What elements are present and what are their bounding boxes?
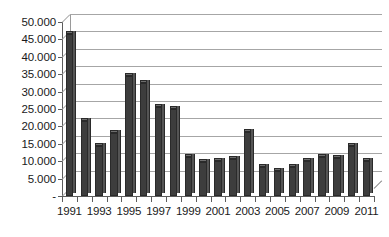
bar-side-face bbox=[311, 158, 314, 193]
x-axis-tick-label: 1999 bbox=[176, 205, 201, 217]
x-axis-tick bbox=[151, 196, 152, 202]
bar-front-face bbox=[110, 133, 117, 196]
x-axis-tick bbox=[62, 196, 63, 202]
x-axis-tick bbox=[315, 196, 316, 202]
bar-top-face bbox=[66, 31, 73, 34]
bar-top-face bbox=[363, 158, 370, 161]
x-axis-tick-label: 1991 bbox=[57, 205, 82, 217]
bar-front-face bbox=[140, 83, 147, 196]
bar bbox=[110, 125, 117, 196]
bar-side-face bbox=[177, 106, 180, 193]
bar-top-face bbox=[95, 143, 102, 146]
y-axis-tick-label: 45.000 bbox=[21, 33, 56, 45]
bar-top-face bbox=[303, 158, 310, 161]
bar-side-face bbox=[341, 155, 344, 193]
bar bbox=[363, 153, 370, 196]
bar-side-face bbox=[296, 164, 299, 193]
bar-chart: -5.00010.00015.00020.00025.00030.00035.0… bbox=[0, 0, 389, 237]
x-axis-tick-label: 2009 bbox=[324, 205, 349, 217]
y-axis-tick-label: 40.000 bbox=[21, 51, 56, 63]
x-axis-tick bbox=[359, 196, 360, 202]
x-axis-tick bbox=[285, 196, 286, 202]
bar-top-face bbox=[229, 156, 236, 159]
y-axis-tick-label: 20.000 bbox=[21, 120, 56, 132]
x-axis-tick-label: 1995 bbox=[116, 205, 141, 217]
x-axis-tick bbox=[270, 196, 271, 202]
y-axis-tick-label: 25.000 bbox=[21, 103, 56, 115]
bar-top-face bbox=[140, 80, 147, 83]
x-axis-tick bbox=[240, 196, 241, 202]
x-axis-tick bbox=[77, 196, 78, 202]
bar-top-face bbox=[155, 104, 162, 107]
bar-top-face bbox=[333, 155, 340, 158]
bar-series bbox=[62, 14, 374, 196]
bar bbox=[66, 26, 73, 196]
x-axis-tick bbox=[92, 196, 93, 202]
bar bbox=[199, 154, 206, 196]
x-axis-tick-label: 2007 bbox=[295, 205, 320, 217]
bar bbox=[140, 75, 147, 196]
bar bbox=[81, 113, 88, 196]
bar-side-face bbox=[370, 158, 373, 193]
bar-front-face bbox=[303, 161, 310, 196]
x-axis-tick-label: 1993 bbox=[87, 205, 112, 217]
bar-top-face bbox=[185, 154, 192, 157]
bar-side-face bbox=[222, 158, 225, 193]
bar-front-face bbox=[214, 161, 221, 196]
x-axis-tick bbox=[211, 196, 212, 202]
bar-front-face bbox=[244, 132, 251, 196]
bar-front-face bbox=[81, 121, 88, 196]
bar bbox=[259, 159, 266, 196]
bar-front-face bbox=[274, 171, 281, 196]
bar-side-face bbox=[103, 143, 106, 193]
bar bbox=[185, 149, 192, 196]
bar-side-face bbox=[237, 156, 240, 193]
y-axis-tick-label: 10.000 bbox=[21, 155, 56, 167]
y-axis-tick-label: 5.000 bbox=[28, 173, 56, 185]
bar-top-face bbox=[348, 143, 355, 146]
bar-front-face bbox=[363, 161, 370, 196]
bar-front-face bbox=[229, 159, 236, 196]
bar-side-face bbox=[88, 118, 91, 193]
y-axis-tick-label: - bbox=[52, 190, 56, 202]
bar-front-face bbox=[289, 167, 296, 196]
bar-top-face bbox=[244, 129, 251, 132]
bar bbox=[170, 101, 177, 196]
x-axis-tick bbox=[181, 196, 182, 202]
bar bbox=[303, 153, 310, 196]
x-axis-tick bbox=[107, 196, 108, 202]
bar bbox=[125, 68, 132, 196]
x-axis-tick bbox=[121, 196, 122, 202]
bar-front-face bbox=[348, 146, 355, 196]
y-axis-tick-label: 35.000 bbox=[21, 68, 56, 80]
bar bbox=[214, 153, 221, 196]
bar-side-face bbox=[251, 129, 254, 193]
bar-top-face bbox=[199, 159, 206, 162]
y-axis-tick-label: 30.000 bbox=[21, 86, 56, 98]
bar-front-face bbox=[333, 158, 340, 196]
bar-front-face bbox=[199, 162, 206, 196]
bar-top-face bbox=[125, 73, 132, 76]
bar-front-face bbox=[155, 107, 162, 196]
bar-front-face bbox=[95, 146, 102, 196]
bar bbox=[348, 138, 355, 196]
bar bbox=[244, 124, 251, 196]
bar-side-face bbox=[133, 73, 136, 193]
bar-front-face bbox=[259, 167, 266, 196]
bar-top-face bbox=[289, 164, 296, 167]
bar-side-face bbox=[147, 80, 150, 193]
bar-side-face bbox=[355, 143, 358, 193]
x-axis-tick bbox=[300, 196, 301, 202]
x-axis-tick-label: 2003 bbox=[235, 205, 260, 217]
x-axis-tick bbox=[225, 196, 226, 202]
bar bbox=[274, 163, 281, 196]
bar-side-face bbox=[118, 130, 121, 193]
x-axis-tick bbox=[374, 196, 375, 202]
bar-side-face bbox=[162, 104, 165, 193]
x-axis-tick-label: 2005 bbox=[265, 205, 290, 217]
bar bbox=[229, 151, 236, 196]
bar-front-face bbox=[125, 76, 132, 196]
bar-side-face bbox=[192, 154, 195, 193]
bar-top-face bbox=[259, 164, 266, 167]
y-axis-labels: -5.00010.00015.00020.00025.00030.00035.0… bbox=[0, 0, 56, 200]
